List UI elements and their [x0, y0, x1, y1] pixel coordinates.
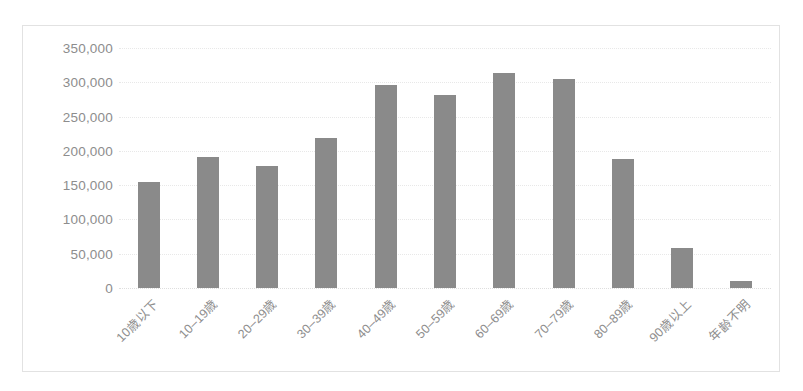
y-axis-tick-label: 300,000 [25, 75, 113, 90]
bar[interactable] [434, 95, 456, 288]
x-axis-tick-label: 10歳以下 [111, 294, 163, 346]
bar-slot [119, 48, 178, 288]
bar-slot [475, 48, 534, 288]
x-axis-tick-slot: 30–39歳 [297, 288, 356, 373]
x-axis-tick-label: 70–79歳 [529, 294, 577, 342]
bar-slot [652, 48, 711, 288]
x-axis-tick-slot: 70–79歳 [534, 288, 593, 373]
plot-area [119, 48, 771, 288]
x-axis-tick-label: 60–69歳 [470, 294, 518, 342]
bar[interactable] [315, 138, 337, 288]
bar-slot [712, 48, 771, 288]
x-axis-tick-label: 40–49歳 [351, 294, 399, 342]
x-axis-tick-slot: 50–59歳 [415, 288, 474, 373]
bar-slot [593, 48, 652, 288]
x-axis-tick-slot: 40–49歳 [356, 288, 415, 373]
y-axis-tick-label: 350,000 [25, 41, 113, 56]
y-axis-tick-label: 50,000 [25, 246, 113, 261]
bar-slot [238, 48, 297, 288]
bar-slot [297, 48, 356, 288]
x-axis-tick-slot: 10歳以下 [119, 288, 178, 373]
x-axis-tick-label: 年齢不明 [704, 294, 755, 345]
chart-frame: 050,000100,000150,000200,000250,000300,0… [22, 25, 780, 372]
bar[interactable] [671, 248, 693, 288]
bar[interactable] [197, 157, 219, 288]
y-axis-tick-label: 100,000 [25, 212, 113, 227]
bar-series [119, 48, 771, 288]
x-axis: 10歳以下10–19歳20–29歳30–39歳40–49歳50–59歳60–69… [119, 288, 771, 373]
y-axis-tick-label: 200,000 [25, 143, 113, 158]
bar-slot [356, 48, 415, 288]
bar-slot [534, 48, 593, 288]
bar[interactable] [553, 79, 575, 288]
x-axis-tick-slot: 10–19歳 [178, 288, 237, 373]
bar[interactable] [730, 281, 752, 288]
y-axis-tick-label: 250,000 [25, 109, 113, 124]
bar[interactable] [612, 159, 634, 288]
x-axis-tick-label: 10–19歳 [173, 294, 221, 342]
y-axis-tick-label: 150,000 [25, 178, 113, 193]
bar-slot [178, 48, 237, 288]
x-axis-tick-slot: 年齢不明 [712, 288, 771, 373]
x-axis-tick-slot: 20–29歳 [238, 288, 297, 373]
bar[interactable] [138, 182, 160, 288]
x-axis-tick-label: 50–59歳 [410, 294, 458, 342]
bar[interactable] [375, 85, 397, 288]
x-axis-tick-label: 30–39歳 [292, 294, 340, 342]
x-axis-tick-label: 20–29歳 [233, 294, 281, 342]
x-axis-tick-label: 80–89歳 [588, 294, 636, 342]
y-axis-tick-label: 0 [25, 281, 113, 296]
bar[interactable] [256, 166, 278, 288]
y-axis: 050,000100,000150,000200,000250,000300,0… [23, 48, 113, 288]
x-axis-tick-label: 90歳以上 [644, 294, 696, 346]
bar[interactable] [493, 73, 515, 288]
bar-slot [415, 48, 474, 288]
x-axis-tick-slot: 60–69歳 [475, 288, 534, 373]
